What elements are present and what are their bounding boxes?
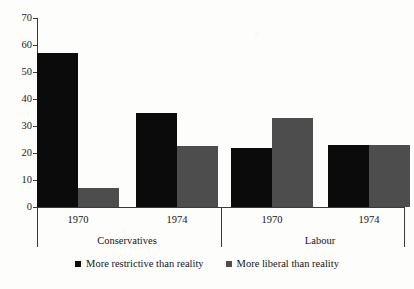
- legend-swatch-icon: [75, 261, 81, 267]
- legend-swatch-icon: [226, 261, 232, 267]
- x-axis-tick-label: 1970: [232, 214, 312, 225]
- x-axis-tick-label: 1974: [329, 214, 409, 225]
- legend-item: More restrictive than reality: [75, 258, 204, 269]
- y-axis-tick-mark: [33, 126, 37, 127]
- legend-label: More restrictive than reality: [86, 258, 204, 269]
- y-axis-tick-mark: [33, 207, 37, 208]
- x-axis-tick-label: 1974: [137, 214, 217, 225]
- legend-item: More liberal than reality: [226, 258, 339, 269]
- bar-chart: 706050403020100 1970197419701974Conserva…: [0, 0, 414, 289]
- group-separator: [404, 207, 405, 247]
- x-axis-labels-layer: 1970197419701974ConservativesLabour: [0, 0, 414, 289]
- y-axis-tick-mark: [33, 99, 37, 100]
- group-separator: [221, 207, 222, 247]
- x-axis-group-label: Conservatives: [67, 235, 187, 246]
- y-axis-tick-mark: [33, 180, 37, 181]
- y-axis-tick-mark: [33, 153, 37, 154]
- y-axis-tick-mark: [33, 18, 37, 19]
- x-axis-tick-label: 1970: [38, 214, 118, 225]
- chart-legend: More restrictive than realityMore libera…: [0, 258, 414, 269]
- legend-label: More liberal than reality: [237, 258, 339, 269]
- x-axis-group-label: Labour: [260, 235, 380, 246]
- y-axis-tick-mark: [33, 72, 37, 73]
- y-axis-tick-mark: [33, 45, 37, 46]
